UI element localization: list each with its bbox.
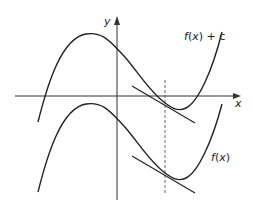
tangent-line-lower <box>132 156 195 193</box>
x-axis <box>15 93 241 99</box>
curve-f-plus-c <box>38 32 222 122</box>
y-axis-label: y <box>103 15 111 28</box>
curve-f <box>38 104 222 192</box>
x-axis-label: x <box>234 97 242 110</box>
y-axis-arrow-icon <box>114 16 120 25</box>
y-axis <box>114 16 120 200</box>
tangent-line-upper <box>132 86 195 123</box>
diagram-canvas: y x f(x) + c f(x) <box>0 0 253 208</box>
label-f: f(x) <box>211 151 230 164</box>
label-f-plus-c: f(x) + c <box>184 30 225 43</box>
